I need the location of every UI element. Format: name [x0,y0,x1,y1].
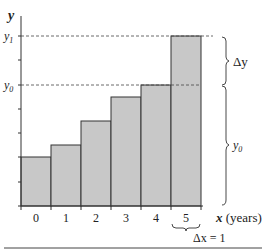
x-ticks [21,206,201,210]
bar-5 [171,36,201,206]
x-tick-labels: 0 1 2 3 4 5 [33,211,189,225]
y0-label: y0 [3,78,13,94]
x-axis-label: x (years) [215,210,262,225]
svg-text:3: 3 [123,211,129,225]
svg-text:0: 0 [33,211,39,225]
svg-text:5: 5 [183,211,189,225]
bar-2 [81,121,111,206]
delta-x-label: Δx = 1 [193,231,225,245]
bar-3 [111,97,141,206]
bars [21,36,201,206]
y1-label: y1 [3,29,13,45]
svg-text:1: 1 [63,211,69,225]
bar-1 [51,145,81,206]
delta-y-brace [222,37,229,85]
delta-y-label: Δy [233,54,248,69]
y0-brace [222,86,229,205]
bar-0 [21,157,51,206]
y-axis-label: y [6,8,15,23]
svg-text:2: 2 [93,211,99,225]
svg-text:4: 4 [153,211,159,225]
delta-diagram: y y1 y0 0 1 2 3 4 5 x (years) Δy y0 Δx =… [0,0,266,249]
bar-4 [141,85,171,206]
y0-brace-label: y0 [232,138,242,154]
delta-x-brace [172,224,200,231]
